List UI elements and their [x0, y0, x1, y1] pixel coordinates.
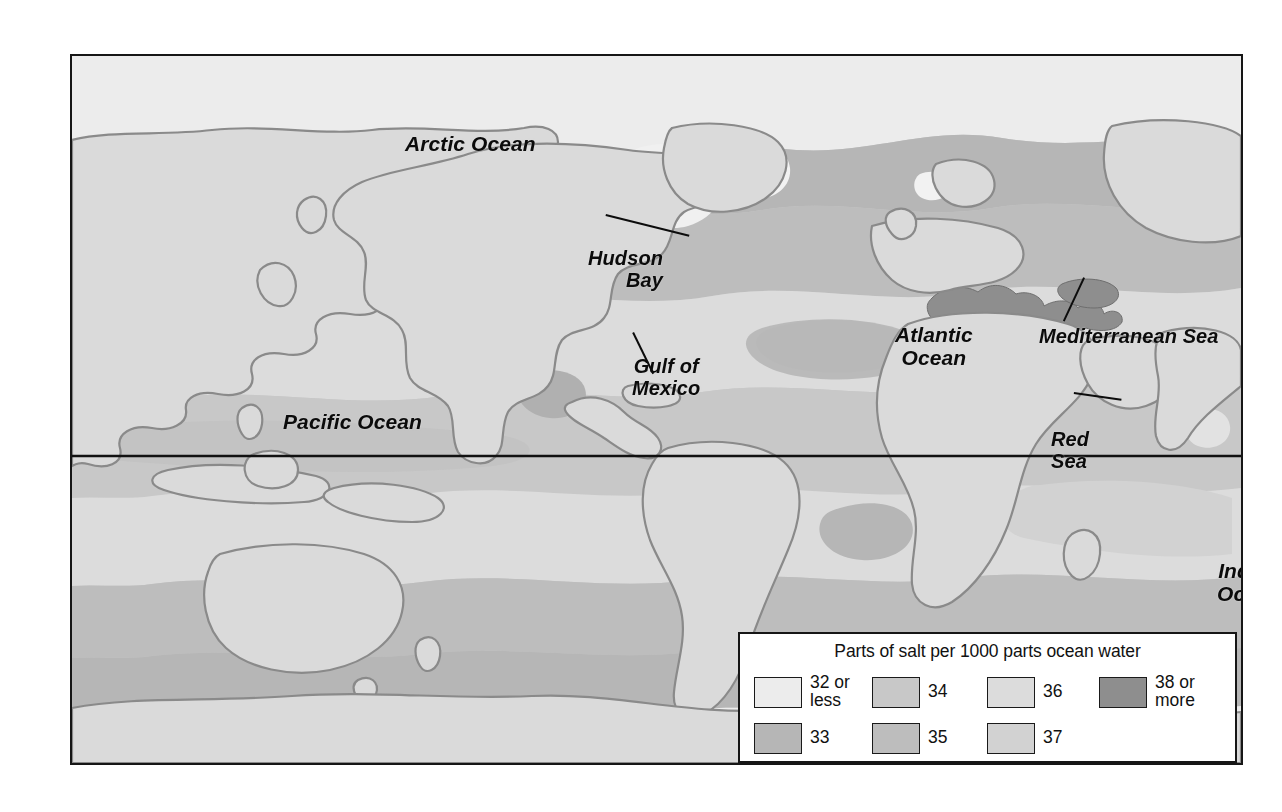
- legend-title: Parts of salt per 1000 parts ocean water: [740, 641, 1235, 662]
- label-atlantic-ocean: Atlantic Ocean: [895, 324, 973, 369]
- legend-swatch-37: [987, 723, 1035, 754]
- legend-item-37: 37: [987, 716, 1099, 760]
- label-mediterranean-sea: Mediterranean Sea: [1039, 326, 1219, 348]
- legend-label-33: 33: [810, 729, 829, 747]
- legend-item-32: 32 or less: [754, 670, 872, 714]
- legend-swatch-38: [1099, 677, 1147, 708]
- label-pacific-ocean: Pacific Ocean: [283, 411, 422, 434]
- legend-swatch-33: [754, 723, 802, 754]
- legend-item-36: 36: [987, 670, 1099, 714]
- legend-item-33: 33: [754, 716, 872, 760]
- salinity-map-page: Arctic Ocean Pacific Ocean Atlantic Ocea…: [0, 0, 1282, 812]
- legend-label-38: 38 or more: [1155, 674, 1195, 710]
- map-legend: Parts of salt per 1000 parts ocean water…: [738, 632, 1237, 763]
- legend-swatch-36: [987, 677, 1035, 708]
- label-indian-ocean: Indian Ocean: [1217, 560, 1243, 605]
- legend-label-37: 37: [1043, 729, 1062, 747]
- legend-item-38: 38 or more: [1099, 670, 1219, 714]
- legend-swatch-32: [754, 677, 802, 708]
- legend-swatch-34: [872, 677, 920, 708]
- legend-item-35: 35: [872, 716, 987, 760]
- label-gulf-of-mexico: Gulf of Mexico: [632, 356, 700, 399]
- legend-swatch-35: [872, 723, 920, 754]
- legend-label-34: 34: [928, 683, 947, 701]
- legend-label-36: 36: [1043, 683, 1062, 701]
- legend-item-34: 34: [872, 670, 987, 714]
- label-red-sea: Red Sea: [1051, 429, 1089, 472]
- legend-label-35: 35: [928, 729, 947, 747]
- legend-label-32: 32 or less: [810, 674, 850, 710]
- label-arctic-ocean: Arctic Ocean: [405, 133, 536, 156]
- legend-items: 32 or less 34 36 38 or more 33 35: [754, 670, 1224, 760]
- label-hudson-bay: Hudson Bay: [588, 248, 663, 291]
